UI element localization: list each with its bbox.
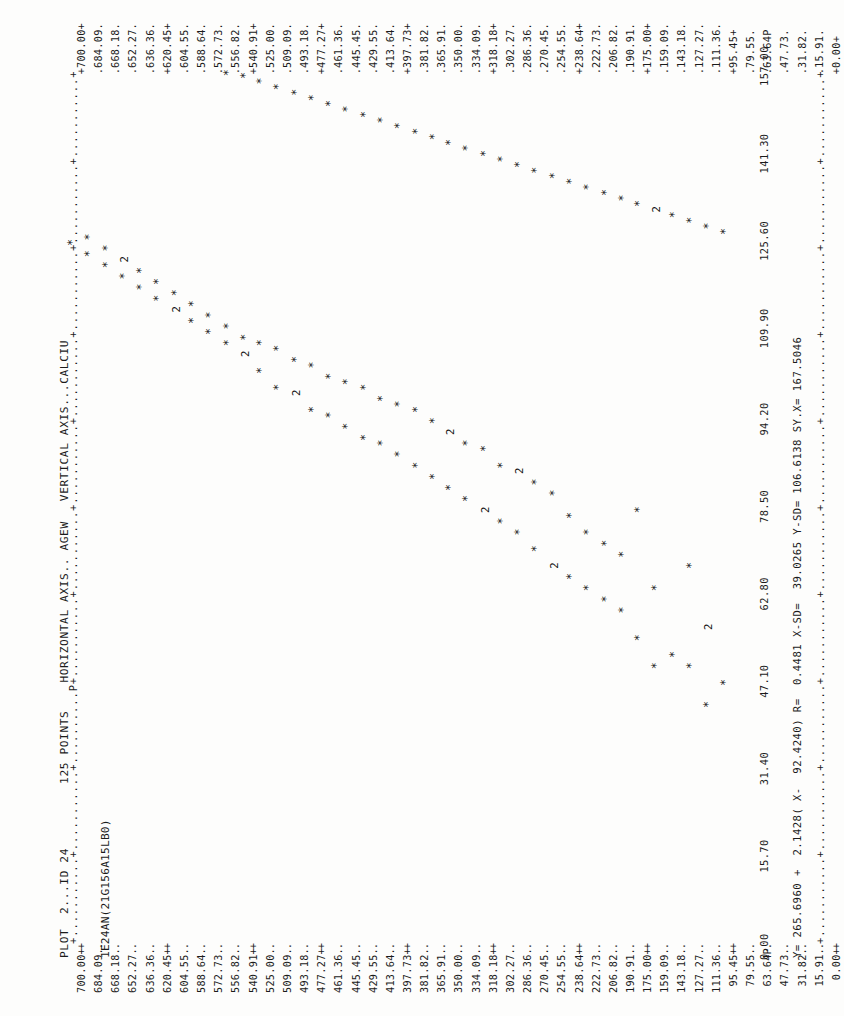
data-point-marker: * — [324, 100, 336, 107]
data-point-marker: * — [307, 406, 319, 413]
data-point-marker: * — [66, 239, 78, 246]
y-tick-label: 318.18+ — [484, 0, 501, 68]
x-tick-label: 157.00 — [757, 46, 769, 86]
y-tick-label: 525.00. — [261, 948, 278, 1016]
data-point-marker: * — [513, 529, 525, 536]
y-tick-label: 429.55. — [364, 948, 381, 1016]
y-tick-label: 477.27+ — [312, 0, 329, 68]
y-tick-label: 254.55. — [552, 948, 569, 1016]
data-point-marker: * — [255, 339, 267, 346]
y-tick-label: 461.36. — [329, 948, 346, 1016]
data-point-marker: * — [153, 278, 165, 285]
data-point-marker: * — [531, 478, 543, 485]
data-point-marker: * — [651, 662, 663, 669]
y-tick-label: 620.45+ — [158, 0, 175, 68]
y-tick-label: 190.91. — [621, 948, 638, 1016]
data-point-marker: * — [101, 245, 113, 252]
y-tick-label: 143.18. — [672, 948, 689, 1016]
data-point-marker: * — [582, 584, 594, 591]
y-tick-label: 652.27. — [123, 0, 140, 68]
data-point-marker: * — [153, 295, 165, 302]
x-axis-labels: 0.0015.7031.4047.1062.8078.5094.20109.90… — [757, 64, 773, 944]
data-point-marker: * — [531, 167, 543, 174]
data-point-marker: * — [290, 356, 302, 363]
data-point-marker: * — [324, 373, 336, 380]
y-tick-label: 620.45+ — [158, 948, 175, 1016]
data-point-marker: * — [633, 634, 645, 641]
y-tick-label: 350.00. — [449, 948, 466, 1016]
data-point-marker: * — [376, 440, 388, 447]
data-point-pair-marker: 2 — [479, 507, 491, 513]
data-point-pair-marker: 2 — [290, 390, 302, 396]
x-tick-label: 141.30 — [757, 133, 769, 173]
data-point-marker: * — [720, 228, 732, 235]
data-point-marker: * — [187, 317, 199, 324]
x-tick-label: 109.90 — [757, 308, 769, 348]
data-point-pair-marker: 2 — [702, 624, 714, 630]
data-point-marker: * — [531, 545, 543, 552]
y-tick-label: 222.73. — [587, 948, 604, 1016]
data-point-marker: * — [496, 156, 508, 163]
data-point-marker: * — [582, 529, 594, 536]
data-point-marker: * — [444, 139, 456, 146]
y-tick-label: 143.18. — [672, 0, 689, 68]
y-tick-label: 254.55. — [552, 0, 569, 68]
data-point-marker: * — [411, 462, 423, 469]
x-tick-label: 47.10 — [757, 665, 769, 698]
y-tick-label: 111.36. — [707, 0, 724, 68]
y-tick-label: 556.82. — [226, 0, 243, 68]
y-tick-label: 652.27. — [123, 948, 140, 1016]
y-tick-label: 588.64. — [192, 0, 209, 68]
data-point-marker: * — [359, 111, 371, 118]
scatter-points-layer: ******2******2*******2******2*******2***… — [72, 70, 828, 944]
y-tick-label: 445.45. — [347, 948, 364, 1016]
y-tick-label: 477.27+ — [312, 948, 329, 1016]
data-point-pair-marker: 2 — [651, 206, 663, 212]
data-point-marker: * — [135, 284, 147, 291]
y-tick-label: 461.36. — [329, 0, 346, 68]
y-tick-label: 159.09. — [655, 0, 672, 68]
data-point-marker: * — [101, 261, 113, 268]
data-point-marker: * — [668, 211, 680, 218]
data-point-marker: * — [204, 328, 216, 335]
data-point-marker: * — [462, 440, 474, 447]
x-tick-label: 15.70 — [757, 839, 769, 872]
data-point-marker: * — [239, 72, 251, 79]
x-tick-label: 31.40 — [757, 752, 769, 785]
y-tick-label: 175.00+ — [638, 0, 655, 68]
data-point-marker: * — [307, 362, 319, 369]
y-tick-label: 238.64+ — [570, 948, 587, 1016]
y-tick-label: 381.82. — [415, 0, 432, 68]
y-tick-label: 47.73. — [775, 948, 792, 1016]
y-tick-label: 413.64. — [381, 948, 398, 1016]
data-point-marker: * — [359, 434, 371, 441]
y-tick-label: 302.27. — [501, 0, 518, 68]
data-point-marker: * — [513, 161, 525, 168]
data-point-marker: * — [565, 512, 577, 519]
data-point-marker: * — [600, 540, 612, 547]
y-tick-label: 525.00. — [261, 0, 278, 68]
data-point-marker: * — [273, 384, 285, 391]
data-point-pair-marker: 2 — [118, 256, 130, 262]
data-point-marker: * — [393, 451, 405, 458]
data-point-marker: * — [307, 94, 319, 101]
y-tick-label: 318.18+ — [484, 948, 501, 1016]
y-tick-label: 0.00+ — [827, 948, 844, 1016]
y-tick-label: 350.00. — [449, 0, 466, 68]
data-point-marker: * — [222, 323, 234, 330]
data-point-marker: * — [204, 311, 216, 318]
y-tick-label: 286.36. — [518, 948, 535, 1016]
data-point-marker: * — [479, 445, 491, 452]
data-point-marker: * — [702, 222, 714, 229]
y-tick-label: 334.09. — [467, 0, 484, 68]
data-point-marker: * — [342, 106, 354, 113]
data-point-marker: * — [651, 584, 663, 591]
y-tick-label: 79.55. — [741, 0, 758, 68]
y-tick-label: 334.09. — [467, 948, 484, 1016]
data-point-marker: * — [118, 273, 130, 280]
data-point-marker: * — [600, 189, 612, 196]
data-point-marker: * — [393, 122, 405, 129]
data-point-marker: * — [84, 234, 96, 241]
y-tick-label: 556.82. — [226, 948, 243, 1016]
y-tick-label: 15.91. — [810, 0, 827, 68]
